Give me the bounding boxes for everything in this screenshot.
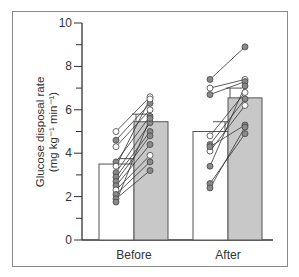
point-before <box>207 133 213 139</box>
point-after <box>242 96 248 102</box>
point-after <box>147 152 153 158</box>
point-before <box>207 163 213 169</box>
chart: 0246810 Before After Glucose disposal ra… <box>0 0 299 277</box>
point-before <box>113 199 119 205</box>
point-after <box>242 83 248 89</box>
bar-shaded <box>228 98 262 240</box>
y-tick-label: 0 <box>65 233 72 247</box>
category-label-before: Before <box>116 248 152 262</box>
point-after <box>242 131 248 137</box>
point-before <box>207 185 213 191</box>
bars <box>99 88 262 240</box>
point-before <box>113 137 119 143</box>
y-tick-label: 6 <box>65 103 72 117</box>
point-after <box>242 102 248 108</box>
y-axis-title: Glucose disposal rate <box>34 77 46 188</box>
y-tick-label: 8 <box>65 59 72 73</box>
point-before <box>207 144 213 150</box>
point-after <box>147 107 153 113</box>
point-before <box>113 144 119 150</box>
point-before <box>207 76 213 82</box>
point-before <box>113 129 119 135</box>
point-after <box>147 168 153 174</box>
point-after <box>147 96 153 102</box>
point-after <box>242 44 248 50</box>
category-label-after: After <box>215 248 240 262</box>
point-before <box>207 92 213 98</box>
paired-line <box>210 47 245 80</box>
point-after <box>147 142 153 148</box>
point-after <box>147 133 153 139</box>
y-tick-label: 2 <box>65 190 72 204</box>
y-tick-label: 10 <box>59 16 73 30</box>
point-after <box>147 159 153 165</box>
y-tick-label: 4 <box>65 146 72 160</box>
y-axis-units: (mg kg⁻¹ min⁻¹) <box>47 92 59 173</box>
point-after <box>242 124 248 130</box>
point-after <box>242 89 248 95</box>
point-after <box>147 115 153 121</box>
point-before <box>113 163 119 169</box>
point-before <box>207 85 213 91</box>
